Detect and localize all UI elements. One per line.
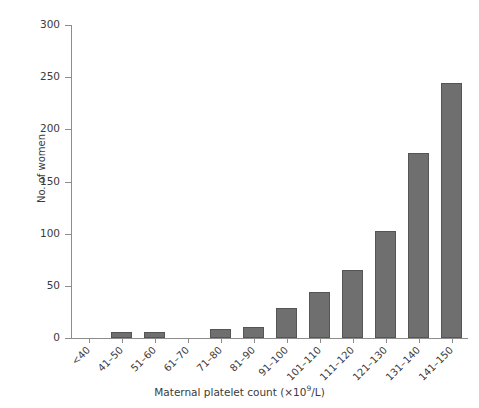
x-axis-tick	[254, 339, 255, 343]
y-axis-tick-label-text: 300	[22, 19, 60, 30]
y-axis-tick-label-text: 150	[22, 176, 60, 187]
y-axis-tick-label: 150	[22, 176, 60, 188]
bar	[342, 270, 364, 338]
y-axis-tick-label-text: 200	[22, 123, 60, 134]
x-axis-tick	[386, 339, 387, 343]
y-axis-tick	[65, 25, 71, 26]
y-axis-tick-label: 200	[22, 123, 60, 135]
bar	[441, 83, 463, 338]
bars-layer	[72, 25, 468, 338]
x-axis-tick	[188, 339, 189, 343]
y-axis-tick-label: 100	[22, 228, 60, 240]
y-axis-tick	[65, 129, 71, 130]
x-axis-tick	[122, 339, 123, 343]
bar	[408, 153, 430, 338]
y-axis-tick-label-text: 50	[22, 280, 60, 291]
bar-chart: No. of women 050100150200250300 <4041–50…	[0, 0, 479, 408]
x-axis-tick-label: 141–150	[417, 345, 455, 383]
y-axis-tick-label: 50	[22, 280, 60, 292]
y-axis-tick	[65, 77, 71, 78]
x-axis-tick	[452, 339, 453, 343]
x-axis-tick-label: 131–140	[384, 345, 422, 383]
bar	[375, 231, 397, 338]
x-axis-tick-label: 71–80	[195, 345, 224, 374]
x-axis-tick-label: 111–120	[318, 345, 356, 383]
x-axis-tick	[320, 339, 321, 343]
x-axis-tick	[353, 339, 354, 343]
x-axis-tick	[419, 339, 420, 343]
x-axis-tick-label: 41–50	[96, 345, 125, 374]
y-axis-tick	[65, 182, 71, 183]
bar	[276, 308, 298, 338]
x-axis-tick-label: 81–90	[228, 345, 257, 374]
y-axis-tick-label: 0	[22, 332, 60, 344]
bar	[111, 332, 133, 338]
y-axis-tick-label-text: 100	[22, 228, 60, 239]
y-axis-tick-label: 250	[22, 71, 60, 83]
x-axis-tick-label: 61–70	[162, 345, 191, 374]
x-axis-line	[72, 338, 468, 339]
x-axis-title-main: Maternal platelet count (×10	[154, 386, 306, 398]
x-axis-title-tail: /L)	[311, 386, 324, 398]
x-axis-tick	[221, 339, 222, 343]
x-axis-tick-label: 101–110	[285, 345, 323, 383]
y-axis-tick-label-text: 0	[22, 332, 60, 343]
y-axis-tick-label: 300	[22, 19, 60, 31]
y-axis-tick	[65, 234, 71, 235]
x-axis-tick-label: 51–60	[129, 345, 158, 374]
bar	[210, 329, 232, 338]
x-axis-tick	[155, 339, 156, 343]
bar	[309, 292, 331, 338]
y-axis-tick-label-text: 250	[22, 71, 60, 82]
bar	[144, 332, 166, 338]
x-axis-tick-label: <40	[70, 345, 92, 367]
x-axis-title: Maternal platelet count (×109/L)	[0, 384, 479, 398]
x-axis-tick	[287, 339, 288, 343]
y-axis-tick	[65, 286, 71, 287]
x-axis-tick-label: 121–130	[351, 345, 389, 383]
x-axis-tick	[89, 339, 90, 343]
bar	[243, 327, 265, 338]
y-axis-tick	[65, 338, 71, 339]
